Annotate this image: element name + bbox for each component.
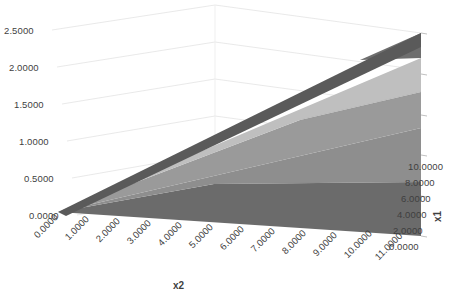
z-tick-label: 1.5000 bbox=[14, 100, 44, 110]
x1-tick-label: 6.0000 bbox=[401, 194, 431, 204]
x1-tick-label: 8.0000 bbox=[405, 178, 435, 188]
x1-tickmark-10 bbox=[421, 33, 427, 34]
gridline-z-2.5-right bbox=[215, 5, 421, 33]
z-tick-label: 2.5000 bbox=[4, 26, 34, 36]
z-tick-label: 0.5000 bbox=[24, 174, 54, 184]
surface-mesh bbox=[58, 33, 421, 236]
surface-chart-3d: 2.5000 2.0000 1.5000 1.0000 0.5000 0.000… bbox=[0, 0, 454, 304]
x1-tick-label: 10.0000 bbox=[408, 162, 443, 172]
z-tick-label: 2.0000 bbox=[9, 63, 39, 73]
x1-tickmark-4 bbox=[421, 155, 427, 156]
axis-ticks bbox=[421, 33, 427, 237]
z-tick-label: 1.0000 bbox=[19, 137, 49, 147]
gridline-z-2.5-left bbox=[52, 5, 215, 30]
gridline-z-1.0-left bbox=[67, 116, 215, 141]
gridline-z-2.0-left bbox=[57, 42, 215, 67]
x1-tick-label: 0.0000 bbox=[389, 242, 419, 252]
x1-axis-title: x1 bbox=[433, 211, 443, 222]
x1-tick-label: 2.0000 bbox=[393, 226, 423, 236]
x1-tickmark-8 bbox=[421, 74, 427, 75]
x1-tick-label: 4.0000 bbox=[397, 210, 427, 220]
x1-tickmark-0 bbox=[421, 236, 427, 237]
x2-axis-title: x2 bbox=[173, 281, 184, 291]
gridline-z-1.5-left bbox=[62, 79, 215, 104]
x1-tickmark-6 bbox=[421, 115, 427, 116]
chart-canvas bbox=[0, 0, 454, 304]
